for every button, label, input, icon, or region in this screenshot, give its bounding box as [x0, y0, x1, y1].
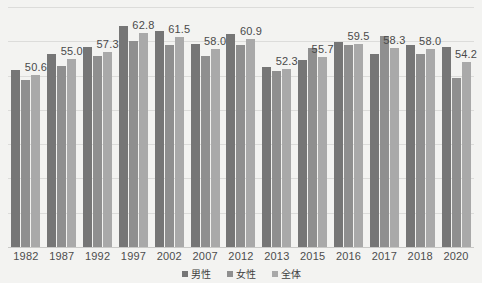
- legend-label: 男性: [191, 266, 211, 281]
- bar-group: 55.7: [295, 7, 331, 248]
- bar-男性: [47, 54, 56, 248]
- bar-女性: [272, 71, 281, 248]
- bar-group: 62.8: [116, 7, 152, 248]
- bar-女性: [380, 36, 389, 248]
- bar-女性: [21, 80, 30, 248]
- bar-groups: 50.655.057.362.861.558.060.952.355.759.5…: [8, 7, 474, 248]
- bar-男性: [11, 70, 20, 248]
- bar-男性: [226, 34, 235, 248]
- legend-swatch-icon: [182, 271, 188, 277]
- bar-女性: [57, 66, 66, 248]
- bar-女性: [452, 78, 461, 248]
- bar-女性: [129, 41, 138, 248]
- legend-item[interactable]: 女性: [227, 266, 256, 281]
- bar-全体: 61.5: [175, 37, 184, 248]
- bar-男性: [442, 47, 451, 248]
- legend-swatch-icon: [227, 271, 233, 277]
- legend-item[interactable]: 男性: [182, 266, 211, 281]
- bar-全体: 57.3: [103, 52, 112, 248]
- bar-全体: 59.5: [354, 44, 363, 248]
- bar-全体: 58.0: [211, 49, 220, 248]
- bar-group: 58.0: [402, 7, 438, 248]
- legend-label: 女性: [236, 266, 256, 281]
- bar-group: 57.3: [80, 7, 116, 248]
- legend-item[interactable]: 全体: [272, 266, 301, 281]
- x-axis-line: [8, 247, 474, 248]
- bar-男性: [334, 42, 343, 248]
- bar-全体: 54.2: [462, 62, 471, 248]
- bar-group: 58.3: [366, 7, 402, 248]
- bar-group: 50.6: [8, 7, 44, 248]
- chart-legend: 男性女性全体: [0, 266, 482, 281]
- bar-男性: [83, 47, 92, 248]
- bar-男性: [262, 67, 271, 248]
- bar-chart: 50.655.057.362.861.558.060.952.355.759.5…: [0, 0, 482, 283]
- bar-男性: [119, 26, 128, 249]
- bar-group: 58.0: [187, 7, 223, 248]
- bar-全体: 62.8: [139, 33, 148, 248]
- bar-全体: 60.9: [246, 39, 255, 248]
- bar-女性: [201, 56, 210, 248]
- bar-男性: [370, 54, 379, 248]
- bar-group: 60.9: [223, 7, 259, 248]
- bar-全体: 55.0: [67, 59, 76, 248]
- legend-swatch-icon: [272, 271, 278, 277]
- bar-全体: 58.0: [426, 49, 435, 248]
- bar-女性: [308, 48, 317, 248]
- legend-label: 全体: [281, 266, 301, 281]
- bar-value-label: 54.2: [455, 48, 477, 60]
- plot-area: 50.655.057.362.861.558.060.952.355.759.5…: [8, 7, 474, 248]
- bar-group: 54.2: [438, 7, 474, 248]
- bar-男性: [406, 45, 415, 248]
- bar-group: 55.0: [44, 7, 80, 248]
- bar-全体: 58.3: [390, 48, 399, 248]
- bar-全体: 52.3: [282, 69, 291, 248]
- bar-group: 52.3: [259, 7, 295, 248]
- bar-女性: [236, 45, 245, 248]
- bar-男性: [155, 31, 164, 248]
- bar-女性: [93, 56, 102, 248]
- bar-全体: 55.7: [318, 57, 327, 248]
- bar-男性: [191, 44, 200, 248]
- bar-男性: [298, 60, 307, 248]
- bar-女性: [344, 45, 353, 248]
- bar-全体: 50.6: [31, 75, 40, 248]
- bar-女性: [416, 54, 425, 248]
- bar-group: 61.5: [151, 7, 187, 248]
- bar-女性: [165, 45, 174, 248]
- bar-group: 59.5: [331, 7, 367, 248]
